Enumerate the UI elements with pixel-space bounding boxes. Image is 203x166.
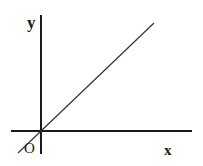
y-axis-label: y [27, 13, 36, 32]
origin-label: O [24, 140, 35, 156]
x-axis-label: x [164, 142, 172, 158]
coordinate-diagram: y O x [0, 0, 203, 166]
